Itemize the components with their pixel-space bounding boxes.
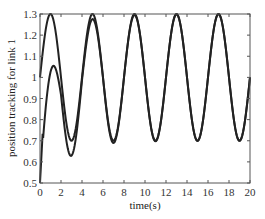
x-tick-label: 18 xyxy=(224,186,236,198)
x-tick-label: 14 xyxy=(182,186,194,198)
y-tick-label: 1.1 xyxy=(23,50,37,62)
axes-frame xyxy=(40,14,250,183)
x-axis-label: time(s) xyxy=(129,199,160,212)
x-tick-label: 16 xyxy=(203,186,215,198)
x-tick-label: 12 xyxy=(161,186,172,198)
x-tick-label: 8 xyxy=(121,186,127,198)
line-chart: 024681012141618200.50.60.70.80.911.11.21… xyxy=(0,0,265,219)
x-tick-label: 0 xyxy=(37,186,43,198)
x-tick-label: 6 xyxy=(100,186,106,198)
y-tick-label: 0.8 xyxy=(23,114,37,126)
y-tick-label: 1.3 xyxy=(23,8,37,20)
actual-line xyxy=(40,14,250,183)
x-tick-label: 20 xyxy=(245,186,257,198)
x-tick-label: 10 xyxy=(140,186,152,198)
y-axis-label: position tracking for link 1 xyxy=(5,39,17,157)
x-tick-label: 4 xyxy=(79,186,85,198)
y-tick-label: 0.5 xyxy=(23,177,37,189)
plot-lines xyxy=(40,14,250,183)
y-tick-label: 1 xyxy=(32,71,38,83)
y-tick-label: 1.2 xyxy=(23,29,37,41)
y-tick-label: 0.6 xyxy=(23,156,37,168)
y-tick-label: 0.7 xyxy=(23,135,37,147)
y-tick-label: 0.9 xyxy=(23,93,37,105)
x-tick-label: 2 xyxy=(58,186,64,198)
